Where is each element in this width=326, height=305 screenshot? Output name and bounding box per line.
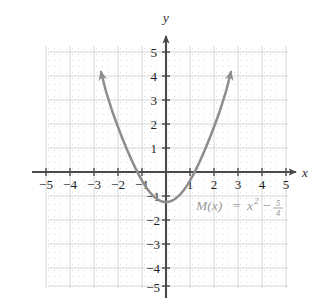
y-tick-label: 5	[151, 45, 158, 60]
equation-minus: −	[262, 198, 271, 213]
equation-lhs: M(x)	[195, 198, 223, 213]
equation-equals: =	[232, 198, 241, 213]
graph-figure: x y −5 −4 −3 −2 −1 1 2 3 4 5 5 4 3 2 1 −…	[0, 0, 326, 305]
y-tick-label: −3	[146, 237, 160, 252]
x-tick-label: −3	[87, 177, 101, 192]
x-tick-label: 2	[211, 177, 218, 192]
grid-minor	[48, 46, 288, 288]
y-tick-label: −4	[146, 261, 160, 276]
y-tick-label: 2	[151, 117, 158, 132]
coordinate-plane-svg: x y −5 −4 −3 −2 −1 1 2 3 4 5 5 4 3 2 1 −…	[0, 0, 326, 305]
x-tick-label: 3	[235, 177, 242, 192]
x-axis-label: x	[301, 165, 308, 180]
y-axis-label: y	[161, 10, 169, 25]
y-tick-label: −2	[146, 213, 160, 228]
x-tick-label: 5	[283, 177, 290, 192]
x-tick-label: −2	[111, 177, 125, 192]
equation-term-base: x	[246, 198, 253, 213]
y-tick-label: 4	[151, 69, 158, 84]
y-tick-label: 3	[151, 93, 158, 108]
x-tick-label: −4	[63, 177, 77, 192]
equation-fraction-numerator: 5	[276, 198, 280, 208]
x-tick-label: 4	[259, 177, 266, 192]
y-tick-label: 1	[151, 141, 158, 156]
equation-exponent: 2	[254, 196, 259, 206]
y-tick-label: −5	[146, 280, 160, 295]
x-tick-label: −5	[39, 177, 53, 192]
